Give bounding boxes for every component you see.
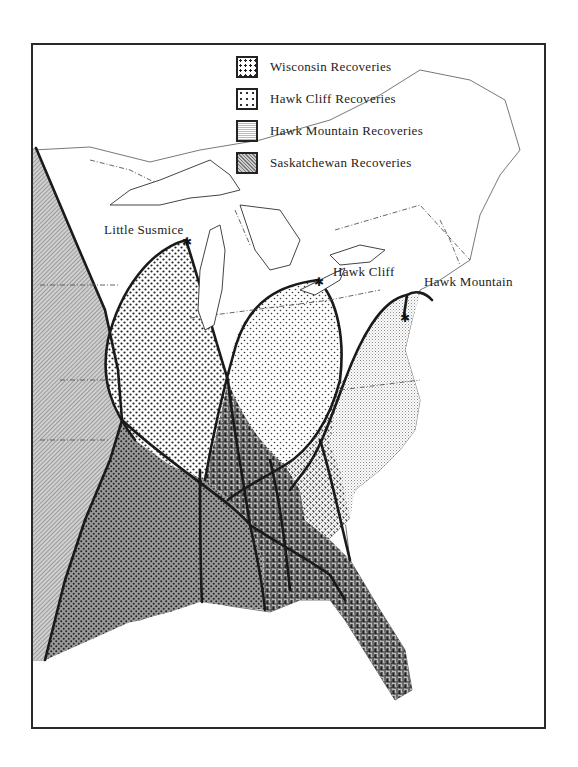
wisconsin-swatch-icon [236,56,258,78]
saskatchewan-swatch-icon [236,152,258,174]
legend-item-hawk-mountain: Hawk Mountain Recoveries [236,115,423,147]
star-icon-hawk-mountain: ✱ [400,311,410,325]
place-label-little-susmice: Little Susmice [104,222,184,238]
hawk-mountain-swatch-icon [236,120,258,142]
legend-label: Hawk Cliff Recoveries [270,91,396,107]
legend-label: Hawk Mountain Recoveries [270,123,423,139]
place-label-hawk-cliff: Hawk Cliff [333,264,395,280]
legend-label: Saskatchewan Recoveries [270,155,412,171]
hawk-cliff-swatch-icon [236,88,258,110]
legend-item-hawk-cliff: Hawk Cliff Recoveries [236,83,423,115]
legend-label: Wisconsin Recoveries [270,59,391,75]
legend-item-saskatchewan: Saskatchewan Recoveries [236,147,423,179]
star-icon-hawk-cliff: ✱ [314,275,324,289]
legend-item-wisconsin: Wisconsin Recoveries [236,51,423,83]
place-label-hawk-mountain: Hawk Mountain [424,274,513,290]
legend: Wisconsin Recoveries Hawk Cliff Recoveri… [236,51,423,179]
